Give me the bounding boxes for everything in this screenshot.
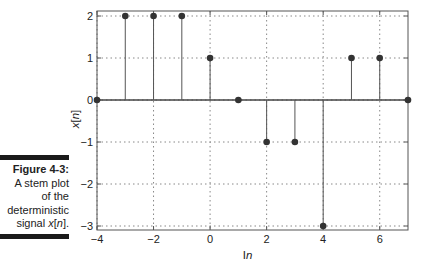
y-tick-label: 1 (87, 52, 93, 64)
stem-marker (405, 97, 412, 104)
stem-marker (150, 13, 157, 20)
stem-marker (235, 97, 242, 104)
y-tick-label: 0 (87, 94, 93, 106)
stem-marker (263, 139, 270, 146)
stem-plot: −3−2−1012−4−20246Inx[n] (0, 0, 429, 267)
y-tick-label: −2 (80, 178, 93, 190)
stem-marker (292, 139, 299, 146)
x-tick-label: 4 (320, 233, 326, 245)
x-tick-label: −4 (91, 233, 104, 245)
x-tick-label: −2 (147, 233, 160, 245)
axes-box (97, 11, 408, 230)
y-tick-label: −1 (80, 136, 93, 148)
stem-marker (348, 55, 355, 62)
x-tick-label: 6 (377, 233, 383, 245)
y-tick-label: 2 (87, 10, 93, 22)
y-tick-label: −3 (80, 220, 93, 232)
y-axis-label: x[n] (69, 110, 81, 130)
stem-marker (122, 13, 129, 20)
x-axis-label: In (243, 249, 253, 261)
stem-marker (320, 223, 327, 230)
stem-marker (94, 97, 101, 104)
x-tick-label: 0 (207, 233, 213, 245)
x-tick-label: 2 (264, 233, 270, 245)
stem-marker (207, 55, 214, 62)
stem-marker (376, 55, 383, 62)
stem-marker (179, 13, 186, 20)
